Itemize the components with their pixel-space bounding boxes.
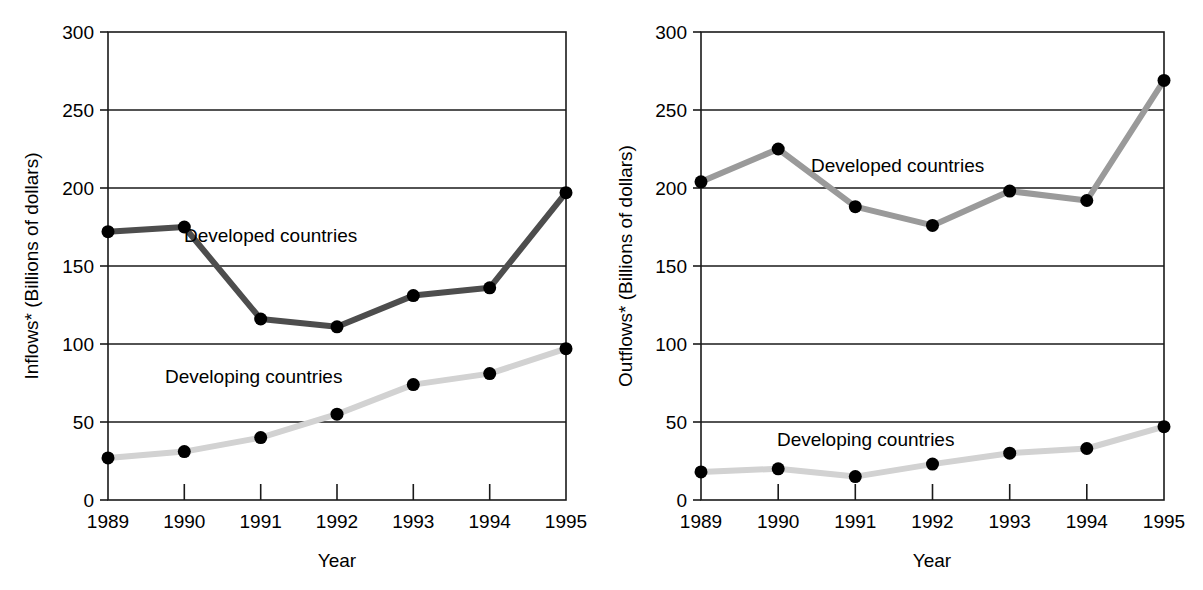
- inflows-chart-svg: 300 250 200 150 100 50 0 1989 1990 1991 …: [0, 0, 600, 590]
- data-point: [1080, 442, 1093, 455]
- data-point: [407, 378, 420, 391]
- x-tick-label: 1990: [757, 511, 799, 532]
- data-point: [331, 320, 344, 333]
- x-tick-label: 1990: [163, 511, 205, 532]
- x-axis-title: Year: [318, 550, 357, 571]
- data-point: [560, 186, 573, 199]
- data-point: [331, 408, 344, 421]
- data-point: [772, 462, 785, 475]
- y-tick-labels-left: 300 250 200 150 100 50 0: [62, 22, 94, 511]
- outflows-chart-svg: 300 250 200 150 100 50 0 1989 1990 1991 …: [600, 0, 1203, 590]
- data-point: [1080, 194, 1093, 207]
- figure-root: 300 250 200 150 100 50 0 1989 1990 1991 …: [0, 0, 1203, 590]
- y-tick-label: 0: [83, 490, 94, 511]
- y-tick-label: 300: [655, 22, 687, 43]
- data-point: [102, 225, 115, 238]
- data-point: [102, 451, 115, 464]
- y-tick-label: 150: [655, 256, 687, 277]
- x-tick-label: 1993: [392, 511, 434, 532]
- y-tick-label: 100: [62, 334, 94, 355]
- data-point: [407, 289, 420, 302]
- data-point: [772, 143, 785, 156]
- data-point: [695, 175, 708, 188]
- y-tick-label: 0: [676, 490, 687, 511]
- x-tick-label: 1993: [989, 511, 1031, 532]
- y-axis-title: Inflows* (Billions of dollars): [21, 152, 42, 379]
- x-tick-label: 1995: [545, 511, 587, 532]
- x-axis-title: Year: [913, 550, 952, 571]
- data-point: [1003, 447, 1016, 460]
- data-point: [254, 431, 267, 444]
- annotation-developing: Developing countries: [777, 429, 954, 450]
- x-tick-labels-left: 1989 1990 1991 1992 1993 1994 1995: [87, 511, 587, 532]
- annotation-developed: Developed countries: [184, 225, 357, 246]
- y-tick-label: 50: [73, 412, 94, 433]
- data-point: [1158, 74, 1171, 87]
- y-tick-label: 200: [62, 178, 94, 199]
- data-point: [254, 313, 267, 326]
- data-point: [849, 470, 862, 483]
- x-tick-label: 1991: [240, 511, 282, 532]
- data-point: [926, 219, 939, 232]
- y-tick-label: 200: [655, 178, 687, 199]
- data-point: [926, 458, 939, 471]
- x-tick-label: 1994: [1066, 511, 1109, 532]
- x-tick-label: 1991: [834, 511, 876, 532]
- x-tick-label: 1992: [911, 511, 953, 532]
- annotation-developed: Developed countries: [811, 155, 984, 176]
- y-tick-label: 250: [655, 100, 687, 121]
- x-tick-label: 1989: [87, 511, 129, 532]
- y-tick-label: 300: [62, 22, 94, 43]
- x-tick-label: 1989: [680, 511, 722, 532]
- y-axis-title: Outflows* (Billions of dollars): [615, 145, 636, 387]
- y-tick-label: 150: [62, 256, 94, 277]
- data-point: [483, 367, 496, 380]
- annotation-developing: Developing countries: [165, 366, 342, 387]
- chart-panel-inflows: 300 250 200 150 100 50 0 1989 1990 1991 …: [0, 0, 600, 590]
- y-tick-label: 250: [62, 100, 94, 121]
- x-tick-label: 1995: [1143, 511, 1185, 532]
- data-point: [1158, 420, 1171, 433]
- data-point: [695, 465, 708, 478]
- data-point: [849, 200, 862, 213]
- y-tick-label: 100: [655, 334, 687, 355]
- data-point: [178, 445, 191, 458]
- y-tick-label: 50: [666, 412, 687, 433]
- y-axis-ticks-left: [100, 32, 108, 500]
- x-tick-label: 1994: [469, 511, 512, 532]
- x-tick-labels-right: 1989 1990 1991 1992 1993 1994 1995: [680, 511, 1185, 532]
- data-point: [1003, 185, 1016, 198]
- chart-panel-outflows: 300 250 200 150 100 50 0 1989 1990 1991 …: [600, 0, 1203, 590]
- data-point: [560, 342, 573, 355]
- data-point: [483, 281, 496, 294]
- y-axis-ticks-right: [693, 32, 701, 500]
- y-tick-labels-right: 300 250 200 150 100 50 0: [655, 22, 687, 511]
- x-tick-label: 1992: [316, 511, 358, 532]
